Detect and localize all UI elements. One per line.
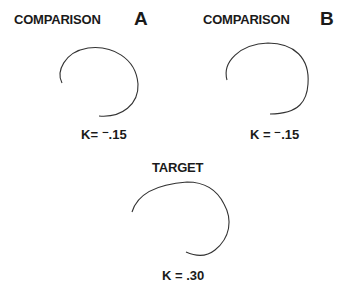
comparison-b-k-value: K = ⁻.15 <box>250 127 299 142</box>
target-title: TARGET <box>152 160 203 175</box>
curve-target <box>132 182 229 256</box>
curve-comparison-b <box>226 43 308 114</box>
target-k-value: K = .30 <box>162 268 204 283</box>
curve-comparison-a <box>60 48 138 117</box>
curves <box>0 0 346 293</box>
comparison-a-k-value: K= ⁻.15 <box>81 127 127 142</box>
